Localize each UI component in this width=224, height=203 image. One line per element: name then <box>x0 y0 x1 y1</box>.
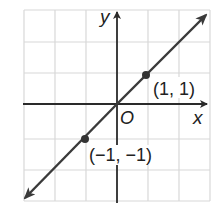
coordinate-plane: y x O (1, 1) (−1, −1) <box>0 0 224 203</box>
origin-label: O <box>120 108 134 128</box>
point-label-1-1: (1, 1) <box>153 79 195 99</box>
point-1-1 <box>142 71 150 79</box>
x-axis-label: x <box>192 107 204 128</box>
point-label-neg1-neg1: (−1, −1) <box>89 145 152 165</box>
y-axis-label: y <box>98 6 111 27</box>
point-neg1-neg1 <box>81 135 89 143</box>
